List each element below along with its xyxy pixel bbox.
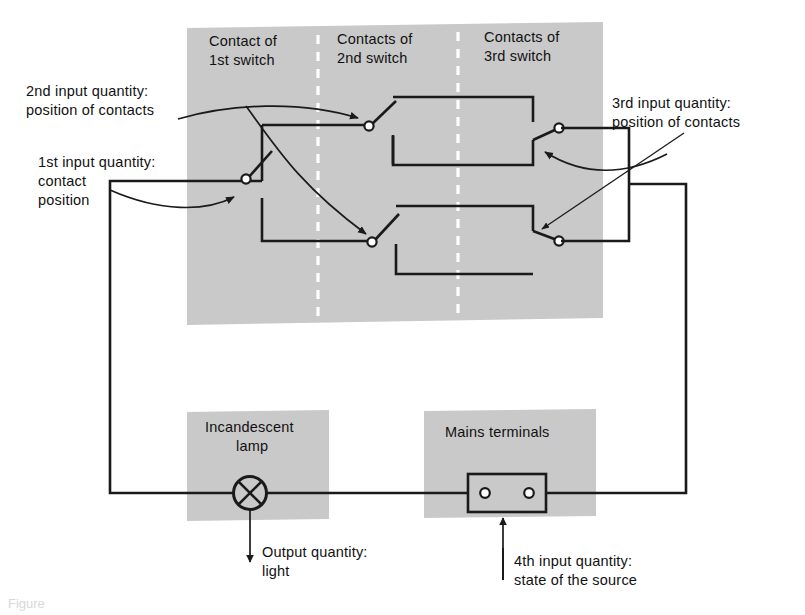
zone-header-3-line2: 3rd switch	[484, 48, 551, 64]
input1-label-line3: position	[38, 192, 90, 208]
lamp-label-line2: lamp	[236, 438, 268, 454]
mains-terminal-right	[524, 488, 534, 498]
input3-label-line1: 3rd input quantity:	[612, 95, 731, 111]
input1-label-line1: 1st input quantity:	[38, 154, 155, 170]
annotation-input-4: 4th input quantity: state of the source	[503, 518, 637, 588]
figure-caption: Figure	[8, 596, 45, 611]
lamp-label-line1: Incandescent	[205, 419, 294, 435]
input1-label-line2: contact	[38, 173, 86, 189]
input2-label-line1: 2nd input quantity:	[26, 83, 148, 99]
zone-header-1-line1: Contact of	[209, 33, 278, 49]
switch2-lower-terminal	[367, 237, 376, 246]
input4-label-line2: state of the source	[514, 572, 637, 588]
output-label-line1: Output quantity:	[262, 544, 368, 560]
zone-header-3-line1: Contacts of	[484, 29, 560, 45]
switch2-upper-terminal	[364, 121, 373, 130]
input3-label-line2: position of contacts	[612, 114, 740, 130]
input4-label-line1: 4th input quantity:	[514, 553, 632, 569]
caption-text: Figure	[8, 596, 45, 611]
switch1-common-terminal	[241, 174, 250, 183]
zone-header-2-line2: 2nd switch	[337, 50, 408, 66]
circuit-diagram-svg: Contact of 1st switch Contacts of 2nd sw…	[0, 0, 805, 615]
output-label-line2: light	[262, 563, 290, 579]
mains-terminal-left	[480, 488, 490, 498]
diagram-canvas: Contact of 1st switch Contacts of 2nd sw…	[0, 0, 805, 615]
zone-header-2-line1: Contacts of	[337, 31, 413, 47]
zone-header-1-line2: 1st switch	[209, 52, 275, 68]
mains-label: Mains terminals	[445, 424, 550, 440]
annotation-output: Output quantity: light	[262, 544, 368, 579]
input2-label-line2: position of contacts	[26, 102, 154, 118]
